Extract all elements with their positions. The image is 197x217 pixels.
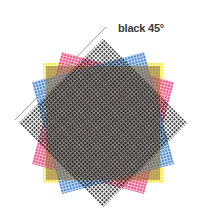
screen-overlay-graphic (0, 0, 197, 217)
black-screen-angle-label: black 45° (118, 22, 164, 34)
halftone-screen-angle-diagram: black 45° (0, 0, 197, 217)
